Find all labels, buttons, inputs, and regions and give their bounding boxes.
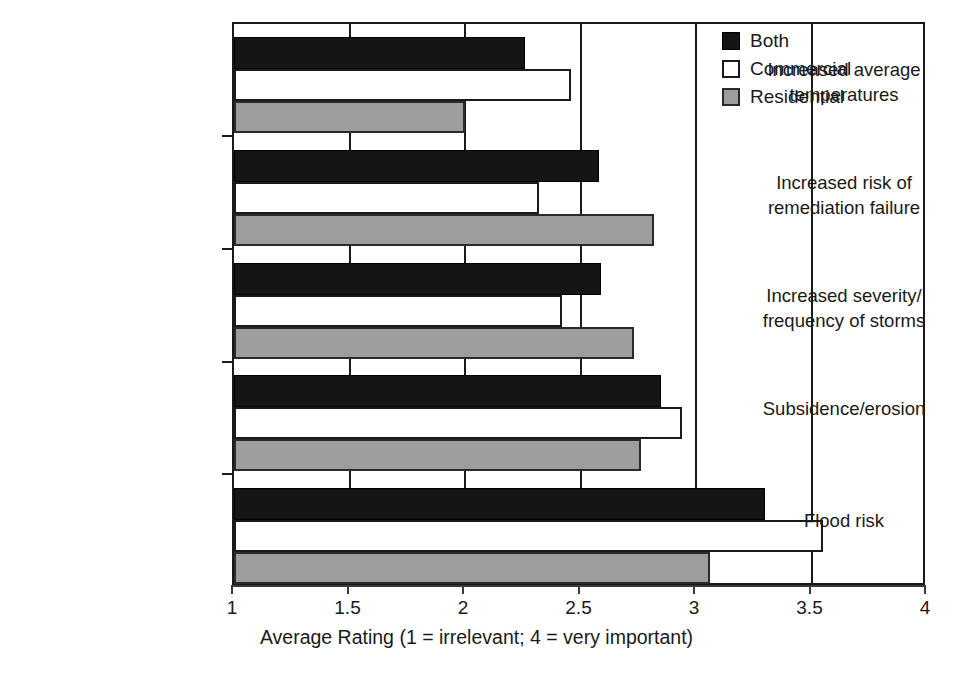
legend-swatch-residential-icon xyxy=(722,88,740,106)
legend-item-both: Both xyxy=(722,28,912,53)
x-axis-tick-label-4: 3 xyxy=(664,597,724,619)
legend-label-both: Both xyxy=(750,30,789,52)
y-axis-tick xyxy=(222,361,233,363)
bar-both-2 xyxy=(234,263,601,295)
legend-label-commercial: Commercial xyxy=(750,58,851,80)
bar-commercial-3 xyxy=(234,407,682,439)
y-axis-tick xyxy=(222,473,233,475)
y-axis-label-2: Increased severity/ frequency of storms xyxy=(735,283,953,333)
bar-residential-0 xyxy=(234,101,465,133)
x-axis-tick-2 xyxy=(462,585,464,594)
bar-residential-2 xyxy=(234,327,634,359)
x-axis-tick-4 xyxy=(693,585,695,594)
x-axis-tick-label-5: 3.5 xyxy=(780,597,840,619)
legend-item-residential: Residential xyxy=(722,84,912,109)
x-axis-tick-label-2: 2 xyxy=(433,597,493,619)
x-axis-tick-6 xyxy=(924,585,926,594)
y-axis-label-3: Subsidence/erosion xyxy=(735,396,953,421)
bar-chart: Increased average temperatures Increased… xyxy=(0,0,953,678)
x-axis-title: Average Rating (1 = irrelevant; 4 = very… xyxy=(0,626,953,649)
x-axis-tick-0 xyxy=(231,585,233,594)
bar-both-3 xyxy=(234,375,661,407)
x-axis-tick-label-0: 1 xyxy=(202,597,262,619)
legend-item-commercial: Commercial xyxy=(722,56,912,81)
x-axis-tick-label-1: 1.5 xyxy=(318,597,378,619)
x-axis-tick-label-6: 4 xyxy=(895,597,953,619)
y-axis-label-4: Flood risk xyxy=(735,508,953,533)
legend-swatch-commercial-icon xyxy=(722,60,740,78)
x-axis-tick-3 xyxy=(578,585,580,594)
bar-both-1 xyxy=(234,150,599,182)
bar-residential-1 xyxy=(234,214,654,246)
bar-both-4 xyxy=(234,488,765,520)
bar-commercial-0 xyxy=(234,69,571,101)
x-axis-tick-5 xyxy=(809,585,811,594)
y-axis-tick xyxy=(222,135,233,137)
legend: Both Commercial Residential xyxy=(722,28,912,112)
y-axis-label-1: Increased risk of remediation failure xyxy=(735,170,953,220)
x-axis-tick-label-3: 2.5 xyxy=(549,597,609,619)
y-axis-tick xyxy=(222,248,233,250)
legend-swatch-both-icon xyxy=(722,32,740,50)
bar-commercial-2 xyxy=(234,295,562,327)
bar-residential-3 xyxy=(234,439,641,471)
bar-residential-4 xyxy=(234,552,710,584)
bar-both-0 xyxy=(234,37,525,69)
legend-label-residential: Residential xyxy=(750,86,844,108)
bar-commercial-1 xyxy=(234,182,539,214)
x-axis-tick-1 xyxy=(347,585,349,594)
